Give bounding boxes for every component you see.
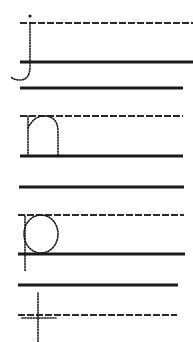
letter-n-trace	[28, 116, 58, 156]
letter-p-trace	[24, 215, 58, 272]
practice-row-j	[11, 14, 193, 88]
letter-j-trace	[11, 14, 32, 80]
handwriting-worksheet	[0, 0, 193, 342]
practice-row-t	[18, 293, 177, 342]
practice-row-p	[18, 215, 185, 285]
practice-row-n	[19, 116, 184, 187]
j-dot	[28, 14, 31, 17]
letter-t-trace	[22, 293, 56, 342]
